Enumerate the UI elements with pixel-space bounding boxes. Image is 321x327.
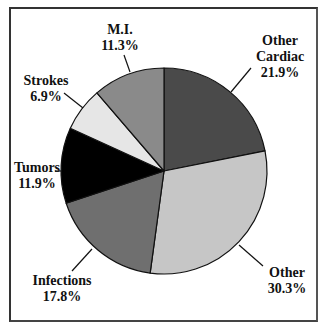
- label-tumors-value: 11.9%: [12, 176, 62, 192]
- label-strokes-name: Strokes: [18, 73, 74, 89]
- leader-line-infections: [72, 249, 92, 271]
- label-other-cardiac-name-1: Other: [247, 33, 313, 49]
- label-other-value: 30.3%: [262, 281, 312, 297]
- label-other-cardiac-name-2: Cardiac: [247, 49, 313, 65]
- label-mi-name: M.I.: [97, 22, 143, 38]
- label-infections-name: Infections: [22, 273, 102, 289]
- leader-line-other: [239, 245, 263, 266]
- pie-slices: [61, 68, 267, 274]
- label-mi: M.I. 11.3%: [97, 22, 143, 54]
- label-tumors-name: Tumors: [12, 160, 62, 176]
- label-strokes: Strokes 6.9%: [18, 73, 74, 105]
- label-other: Other 30.3%: [262, 265, 312, 297]
- label-mi-value: 11.3%: [97, 38, 143, 54]
- label-other-cardiac-value: 21.9%: [247, 65, 313, 81]
- leader-line-mi: [124, 55, 130, 72]
- label-strokes-value: 6.9%: [18, 89, 74, 105]
- label-infections: Infections 17.8%: [22, 273, 102, 305]
- label-tumors: Tumors 11.9%: [12, 160, 62, 192]
- label-infections-value: 17.8%: [22, 289, 102, 305]
- label-other-name: Other: [262, 265, 312, 281]
- label-other-cardiac: Other Cardiac 21.9%: [247, 33, 313, 81]
